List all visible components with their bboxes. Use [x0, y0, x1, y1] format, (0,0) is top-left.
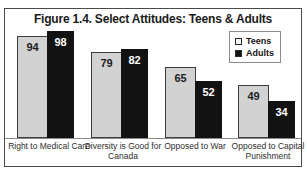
bar-value-label: 65 — [166, 72, 195, 84]
x-axis-baseline — [5, 138, 301, 139]
bar-group: 9498 — [17, 29, 74, 138]
bar-teens: 65 — [165, 67, 196, 138]
bar-value-label: 79 — [92, 57, 121, 69]
legend-item-adults: Adults — [235, 47, 274, 59]
legend-item-teens: Teens — [235, 35, 274, 47]
chart-legend: Teens Adults — [229, 31, 281, 63]
legend-swatch-adults-icon — [235, 50, 242, 57]
bar-value-label: 94 — [18, 41, 47, 53]
figure-panel: Figure 1.4. Select Attitudes: Teens & Ad… — [4, 8, 302, 167]
bar-value-label: 98 — [48, 36, 73, 48]
category-label: Right to Medical Care — [7, 141, 91, 151]
legend-label-teens: Teens — [246, 36, 271, 46]
bar-value-label: 34 — [269, 106, 294, 118]
category-label: Diversity is Good for Canada — [81, 141, 165, 161]
bar-teens: 79 — [91, 52, 122, 138]
category-label: Opposed to War — [155, 141, 235, 151]
bar-adults: 82 — [121, 49, 148, 138]
legend-swatch-teens-icon — [235, 38, 242, 45]
bar-value-label: 82 — [122, 54, 147, 66]
bar-value-label: 49 — [239, 90, 268, 102]
bar-teens: 49 — [238, 85, 269, 138]
bar-group: 7982 — [91, 29, 148, 138]
bar-teens: 94 — [17, 36, 48, 138]
bar-value-label: 52 — [196, 86, 221, 98]
bar-group: 6552 — [165, 29, 222, 138]
bar-adults: 52 — [195, 81, 222, 138]
legend-label-adults: Adults — [246, 48, 274, 58]
bar-adults: 98 — [47, 31, 74, 138]
category-label: Opposed to Capital Punishment — [227, 141, 307, 161]
page-title: Figure 1.4. Select Attitudes: Teens & Ad… — [5, 12, 301, 26]
bar-adults: 34 — [268, 101, 295, 138]
